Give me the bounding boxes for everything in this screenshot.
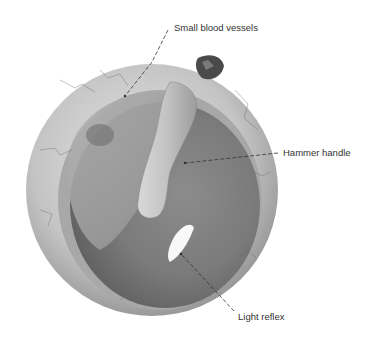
eardrum-diagram: Small blood vessels Hammer handle Light … — [0, 0, 365, 341]
label-light-reflex: Light reflex — [238, 311, 284, 322]
label-small-blood-vessels: Small blood vessels — [174, 22, 258, 33]
eardrum-illustration — [0, 0, 365, 341]
label-hammer-handle: Hammer handle — [283, 147, 351, 158]
shadow-spot — [86, 124, 114, 146]
